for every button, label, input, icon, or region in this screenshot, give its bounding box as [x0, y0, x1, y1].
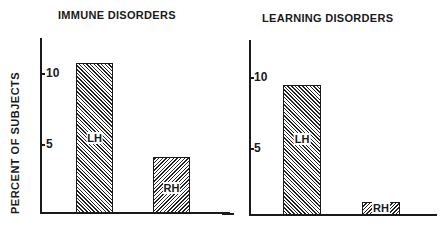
- x-axis: [40, 212, 230, 214]
- tick-5: [42, 144, 45, 146]
- bar-label-lh: LH: [86, 132, 103, 144]
- y-axis: [40, 38, 42, 214]
- tick-label-5: 5: [46, 137, 53, 151]
- axis-segment: [222, 213, 234, 215]
- bar-label-lh: LH: [294, 133, 311, 145]
- y-axis: [249, 40, 251, 216]
- chart-title: IMMUNE DISORDERS: [58, 9, 176, 21]
- bar-label-rh: RH: [163, 182, 181, 194]
- bar-lh: LH: [76, 63, 113, 213]
- bar-rh: RH: [153, 157, 190, 213]
- chart-title: LEARNING DISORDERS: [262, 12, 393, 24]
- bar-lh: LH: [283, 85, 321, 215]
- bar-rh: RH: [362, 202, 400, 215]
- tick-10: [42, 73, 45, 75]
- tick-label-10: 10: [46, 66, 59, 80]
- tick-label-10: 10: [254, 70, 267, 84]
- tick-label-5: 5: [254, 141, 261, 155]
- bar-label-rh: RH: [372, 202, 390, 214]
- y-axis-label: PERCENT OF SUBJECTS: [9, 72, 21, 214]
- x-axis: [249, 214, 437, 216]
